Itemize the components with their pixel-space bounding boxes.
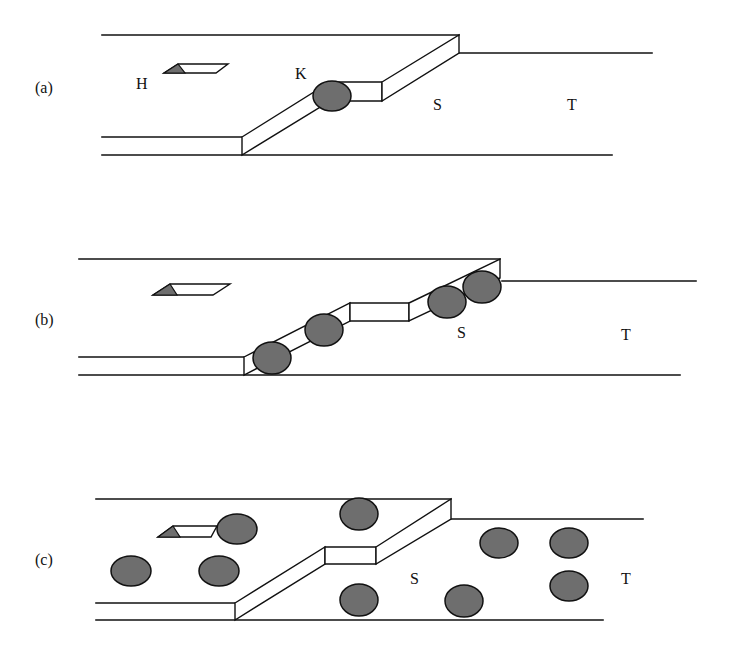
region-label-t: T [621,326,631,343]
panel-b: (b)ST [35,259,696,375]
particle [463,271,501,303]
region-label-t: T [621,570,631,587]
particle [550,571,588,601]
step-face [325,547,376,564]
step-face [382,35,459,101]
particle [428,286,466,318]
panel-a: (a)HKST [35,35,652,155]
particle [340,584,378,616]
step-face [376,499,451,564]
particle [445,585,483,617]
particle [217,514,257,544]
step-flow-diagram: (a)HKST (b)ST (c)ST [0,0,731,645]
particle [305,314,343,346]
panel-label: (c) [35,551,53,569]
particle [253,342,291,374]
particle [111,556,151,586]
region-label-s: S [457,324,466,341]
region-label-s: S [410,570,419,587]
particle [199,556,239,586]
panel-label: (b) [35,311,54,329]
panel-label: (a) [35,79,53,97]
particle [340,498,378,530]
step-face [350,303,409,321]
particle [313,81,351,111]
particle [480,528,518,558]
step-face [235,547,325,620]
region-label-k: K [295,65,307,82]
region-label-s: S [433,96,442,113]
region-label-t: T [567,96,577,113]
panel-c: (c)ST [35,498,643,620]
particle [550,528,588,558]
region-label-h: H [136,75,148,92]
